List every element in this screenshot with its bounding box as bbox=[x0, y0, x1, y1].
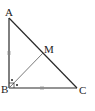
vertex-label-a: A bbox=[5, 7, 13, 18]
geometry-figure: A B C M bbox=[0, 0, 95, 111]
angle-dot-lower bbox=[16, 84, 18, 86]
angle-dot-upper bbox=[11, 79, 13, 81]
vertex-label-c: C bbox=[79, 85, 86, 96]
point-label-m: M bbox=[44, 44, 54, 55]
vertex-label-b: B bbox=[1, 84, 8, 95]
